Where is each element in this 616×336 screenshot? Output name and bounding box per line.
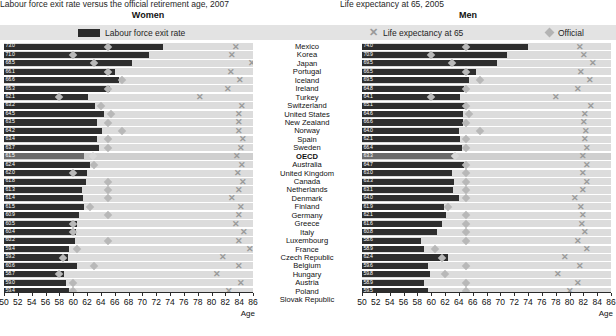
axis-tick-label: 52 — [371, 297, 380, 307]
bar-value-label: 62.1 — [364, 211, 373, 218]
axis-tick-label: 68 — [482, 297, 491, 307]
chart-row: ✕69.5 — [362, 60, 611, 68]
exit-rate-bar — [362, 86, 464, 92]
axis-tick — [445, 293, 446, 296]
chart-row: ✕63.3 — [362, 178, 611, 186]
axis-tick — [570, 293, 571, 296]
axis-tick-label: 74 — [165, 297, 174, 307]
chart-legend: Labour force exit rate ✕ Life expectancy… — [0, 25, 616, 40]
axis-tick-label: 64 — [96, 297, 105, 307]
legend-label-exit-rate: Labour force exit rate — [105, 28, 185, 38]
bar-value-label: 61.6 — [364, 220, 373, 227]
chart-row: ✕64.6 — [362, 111, 611, 119]
exit-rate-bar — [362, 94, 460, 100]
axis-tick-label: 66 — [468, 297, 477, 307]
axis-tick-label: 76 — [179, 297, 188, 307]
axis-tick — [156, 293, 157, 296]
bar-value-label: 71.0 — [6, 51, 15, 58]
life-expectancy-marker: ✕ — [583, 244, 591, 254]
exit-rate-bar — [4, 77, 119, 83]
bar-value-label: 63.7 — [6, 144, 15, 151]
chart-row: ✕61.9 — [362, 203, 611, 211]
life-expectancy-marker: ✕ — [576, 261, 584, 271]
bar-value-label: 68.5 — [6, 59, 15, 66]
chart-row: ✕63.2 — [4, 102, 253, 110]
bar-value-label: 62.4 — [6, 161, 15, 168]
bar-value-label: 61.8 — [6, 177, 15, 184]
axis-title: Age — [599, 309, 613, 318]
exit-rate-bar — [4, 60, 132, 66]
exit-rate-bar — [362, 77, 469, 83]
bar-value-label: 60.2 — [6, 236, 15, 243]
axis-tick-label: 58 — [55, 297, 64, 307]
bar-value-label: 64.2 — [6, 127, 15, 134]
exit-rate-bar — [362, 145, 462, 151]
bar-value-label: 59.4 — [6, 287, 15, 292]
exit-rate-bar — [362, 69, 476, 75]
chart-row: ✕58.7 — [4, 271, 253, 279]
axis-tick — [404, 293, 405, 296]
chart-row: ✕71.0 — [4, 51, 253, 59]
axis-tick — [129, 293, 130, 296]
axis-tick — [583, 293, 584, 296]
country-label-column: MexicoKoreaJapanPortugalIcelandIrelandTu… — [253, 43, 361, 305]
axis-tick-label: 54 — [27, 297, 36, 307]
chart-row: ✕66.6 — [362, 119, 611, 127]
legend-item-life-expectancy: ✕ Life expectancy at 65 — [369, 25, 463, 40]
exit-rate-bar — [362, 136, 460, 142]
exit-rate-bar — [4, 204, 84, 210]
bar-value-label: 63.3 — [364, 152, 373, 159]
bar-value-label: 61.5 — [6, 152, 15, 159]
life-expectancy-marker: ✕ — [246, 244, 253, 254]
bar-value-label: 63.2 — [6, 101, 15, 108]
bar-swatch-icon — [78, 29, 100, 37]
bar-value-label: 66.4 — [364, 144, 373, 151]
life-expectancy-marker: ✕ — [589, 58, 597, 68]
axis-tick — [142, 293, 143, 296]
chart-row: ✕58.6 — [362, 237, 611, 245]
bar-value-label: 61.4 — [6, 194, 15, 201]
life-expectancy-marker: ✕ — [235, 261, 243, 271]
right-panel-title: Life expectancy at 65, 2005 — [340, 0, 444, 9]
bar-value-label: 58.9 — [364, 245, 373, 252]
bar-value-label: 64.0 — [364, 194, 373, 201]
men-panel: ✕74.0✕70.9✕69.5✕66.5✕69.5✕64.8✕64.1✕65.1… — [362, 43, 611, 308]
exit-rate-bar — [362, 119, 463, 125]
exit-rate-bar — [4, 162, 90, 168]
bar-value-label: 65.3 — [6, 85, 15, 92]
axis-tick — [18, 293, 19, 296]
bar-value-label: 63.3 — [364, 177, 373, 184]
bar-value-label: 64.0 — [364, 127, 373, 134]
chart-row: ✕63.5 — [4, 119, 253, 127]
chart-row: ✕64.8 — [362, 85, 611, 93]
chart-row: ✕62.4 — [362, 254, 611, 262]
exit-rate-bar — [362, 187, 453, 193]
bar-value-label: 74.0 — [364, 43, 373, 50]
axis-tick-label: 82 — [579, 297, 588, 307]
bar-value-label: 60.8 — [364, 228, 373, 235]
exit-rate-bar — [362, 221, 442, 227]
country-label: Slovak Republic — [253, 296, 361, 304]
chart-row: ✕62.1 — [362, 212, 611, 220]
exit-rate-bar — [4, 86, 110, 92]
life-expectancy-marker: ✕ — [236, 75, 244, 85]
chart-row: ✕70.9 — [362, 51, 611, 59]
bar-value-label: 66.5 — [364, 68, 373, 75]
bar-value-label: 59.5 — [364, 287, 373, 292]
chart-row: ✕62.1 — [4, 94, 253, 102]
life-expectancy-marker: ✕ — [228, 193, 236, 203]
axis-tick — [362, 293, 363, 296]
exit-rate-bar — [362, 204, 444, 210]
life-expectancy-marker: ✕ — [235, 236, 243, 246]
axis-tick — [431, 293, 432, 296]
chart-row: ✕63.3 — [362, 153, 611, 161]
exit-rate-bar — [362, 162, 464, 168]
exit-rate-bar — [362, 44, 528, 50]
axis-tick — [4, 293, 5, 296]
bar-value-label: 59.8 — [364, 270, 373, 277]
chart-row: ✕63.0 — [362, 170, 611, 178]
axis-tick-label: 60 — [426, 297, 435, 307]
legend-item-official: Official — [546, 25, 584, 40]
left-panel-title: Labour force exit rate versus the offici… — [0, 0, 229, 9]
exit-rate-bar — [362, 128, 459, 134]
